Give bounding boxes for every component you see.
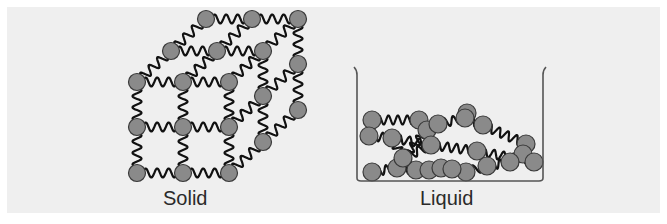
liquid-particle (363, 163, 381, 181)
solid-particle (255, 134, 272, 151)
states-of-matter-diagram (0, 0, 667, 224)
liquid-particle (501, 153, 519, 171)
solid-particle (244, 11, 261, 28)
solid-particle (221, 74, 238, 91)
solid-particle (129, 119, 146, 136)
solid-particle (221, 119, 238, 136)
solid-particle (129, 165, 146, 182)
solid-particle (175, 74, 192, 91)
liquid-particle (363, 111, 381, 129)
liquid-particle (525, 153, 543, 171)
liquid-particle (422, 136, 440, 154)
solid-lattice-bonds (133, 15, 303, 178)
liquid-particle (443, 160, 461, 178)
liquid-particle (429, 115, 447, 133)
solid-particle (290, 102, 307, 119)
liquid-particle (478, 157, 496, 175)
solid-particle (198, 11, 215, 28)
solid-particle (175, 119, 192, 136)
solid-particle (290, 11, 307, 28)
solid-particle (255, 88, 272, 105)
solid-particle (163, 43, 180, 60)
liquid-particle (456, 109, 474, 127)
solid-particle (129, 74, 146, 91)
liquid-particle (394, 149, 412, 167)
liquid-label: Liquid (420, 188, 473, 208)
solid-label: Solid (163, 188, 207, 208)
solid-particle (290, 56, 307, 73)
liquid-particle (383, 129, 401, 147)
solid-particle (221, 165, 238, 182)
solid-particle (209, 43, 226, 60)
solid-particle (255, 43, 272, 60)
solid-lattice-particles (129, 11, 307, 182)
liquid-particle (360, 127, 378, 145)
liquid-particle (474, 116, 492, 134)
solid-particle (175, 165, 192, 182)
